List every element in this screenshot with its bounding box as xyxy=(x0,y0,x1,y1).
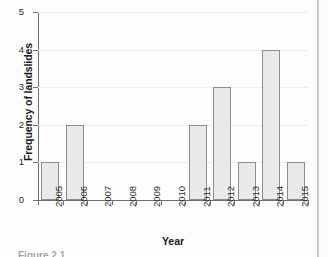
y-tick xyxy=(33,162,38,163)
x-tick-label: 2006 xyxy=(79,186,89,207)
y-tick xyxy=(33,12,38,13)
x-tick-label: 2008 xyxy=(128,186,138,207)
plot-area xyxy=(38,12,308,200)
x-axis-title: Year xyxy=(38,235,308,247)
figure-caption: Figure 2.1 xyxy=(18,250,248,257)
x-tick-label: 2007 xyxy=(103,186,113,207)
bar xyxy=(262,50,280,200)
x-tick-label: 2014 xyxy=(275,186,285,207)
x-tick xyxy=(38,201,39,205)
page-edge-shade xyxy=(319,0,328,257)
x-tick-label: 2010 xyxy=(177,186,187,207)
y-tick-label: 2 xyxy=(2,120,24,130)
x-tick-label: 2005 xyxy=(54,186,64,207)
y-tick-label: 0 xyxy=(2,195,24,205)
figure-page: Frequency of landslides 012345 200520062… xyxy=(0,0,328,257)
bar-chart: Frequency of landslides 012345 200520062… xyxy=(0,0,318,257)
y-tick-label: 1 xyxy=(2,157,24,167)
y-tick-label: 3 xyxy=(2,82,24,92)
y-tick xyxy=(33,125,38,126)
y-tick xyxy=(33,87,38,88)
y-tick xyxy=(33,50,38,51)
x-tick-label: 2009 xyxy=(152,186,162,207)
y-tick-label: 4 xyxy=(2,45,24,55)
page-edge-line xyxy=(317,0,319,257)
bar xyxy=(213,87,231,200)
y-tick-label: 5 xyxy=(2,7,24,17)
x-tick-label: 2013 xyxy=(251,186,261,207)
x-tick-label: 2011 xyxy=(202,187,212,207)
gridline xyxy=(38,12,308,13)
x-tick-label: 2015 xyxy=(300,186,310,207)
x-tick-label: 2012 xyxy=(226,186,236,207)
